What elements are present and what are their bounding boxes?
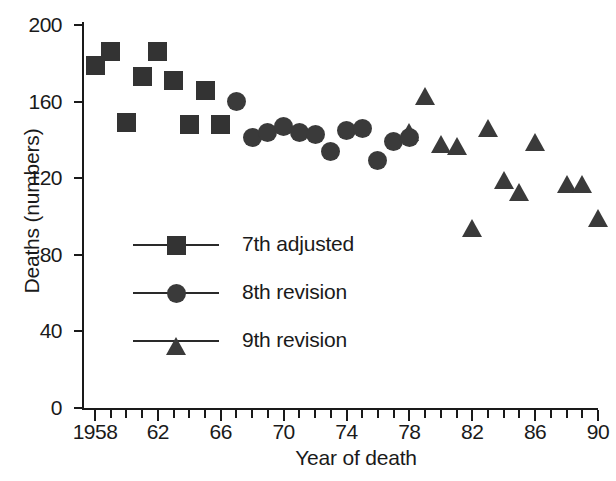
legend-label-7th-adjusted: 7th adjusted <box>242 231 354 257</box>
x-tick-minor <box>456 410 458 418</box>
y-axis-title: Deaths (numbers) <box>21 86 43 336</box>
y-tick <box>74 254 82 256</box>
data-point <box>148 42 167 61</box>
x-tick-minor <box>141 410 143 418</box>
data-point <box>478 119 498 137</box>
legend-label-9th-revision: 9th revision <box>242 327 347 353</box>
y-tick <box>74 407 82 409</box>
x-tick-label: 86 <box>500 421 570 443</box>
x-tick-label: 1958 <box>60 421 130 443</box>
y-tick-label: 200 <box>18 14 62 35</box>
x-tick-label: 82 <box>437 421 507 443</box>
data-point <box>525 133 545 151</box>
y-tick <box>74 177 82 179</box>
x-tick-minor <box>173 410 175 418</box>
legend-marker-triangle <box>133 329 219 353</box>
data-point <box>133 67 152 86</box>
data-point <box>227 92 246 111</box>
data-point <box>572 175 592 193</box>
legend-marker-square <box>133 233 219 257</box>
y-tick-label: 0 <box>18 397 62 418</box>
x-tick-minor <box>377 410 379 418</box>
x-tick-label: 90 <box>563 421 616 443</box>
data-point <box>509 183 529 201</box>
data-point <box>306 125 325 144</box>
data-point <box>368 151 387 170</box>
x-tick-minor <box>581 410 583 418</box>
x-tick-minor <box>440 410 442 418</box>
data-point <box>211 115 230 134</box>
x-tick-minor <box>125 410 127 418</box>
x-tick-label: 70 <box>249 421 319 443</box>
x-tick-minor <box>518 410 520 418</box>
x-axis-line <box>82 408 598 410</box>
x-tick-label: 74 <box>312 421 382 443</box>
x-tick-minor <box>314 410 316 418</box>
data-point <box>196 81 215 100</box>
legend-marker-circle <box>133 281 219 305</box>
data-point <box>164 71 183 90</box>
x-tick-minor <box>424 410 426 418</box>
x-tick-minor <box>267 410 269 418</box>
x-tick-minor <box>393 410 395 418</box>
y-tick <box>74 101 82 103</box>
x-tick-minor <box>503 410 505 418</box>
x-tick-minor <box>110 410 112 418</box>
data-point <box>399 123 419 141</box>
x-tick-label: 66 <box>186 421 256 443</box>
x-tick-minor <box>566 410 568 418</box>
y-tick <box>74 24 82 26</box>
data-point <box>101 42 120 61</box>
x-tick-label: 62 <box>123 421 193 443</box>
x-tick-minor <box>251 410 253 418</box>
x-tick-minor <box>298 410 300 418</box>
x-axis-title: Year of death <box>216 447 496 469</box>
x-tick-minor <box>188 410 190 418</box>
data-point <box>180 115 199 134</box>
data-point <box>462 219 482 237</box>
x-tick-minor <box>361 410 363 418</box>
data-point <box>588 209 608 227</box>
data-point <box>321 142 340 161</box>
legend-label-8th-revision: 8th revision <box>242 279 347 305</box>
data-point <box>117 113 136 132</box>
y-tick <box>74 330 82 332</box>
data-point <box>447 137 467 155</box>
x-tick-minor <box>204 410 206 418</box>
x-tick-minor <box>487 410 489 418</box>
y-axis-line <box>82 22 84 410</box>
x-tick-minor <box>550 410 552 418</box>
x-tick-minor <box>330 410 332 418</box>
x-tick-minor <box>235 410 237 418</box>
x-tick-label: 78 <box>374 421 444 443</box>
data-point <box>353 119 372 138</box>
chart-figure: 04080120160200 19586266707478828690 Deat… <box>0 0 616 481</box>
data-point <box>415 87 435 105</box>
